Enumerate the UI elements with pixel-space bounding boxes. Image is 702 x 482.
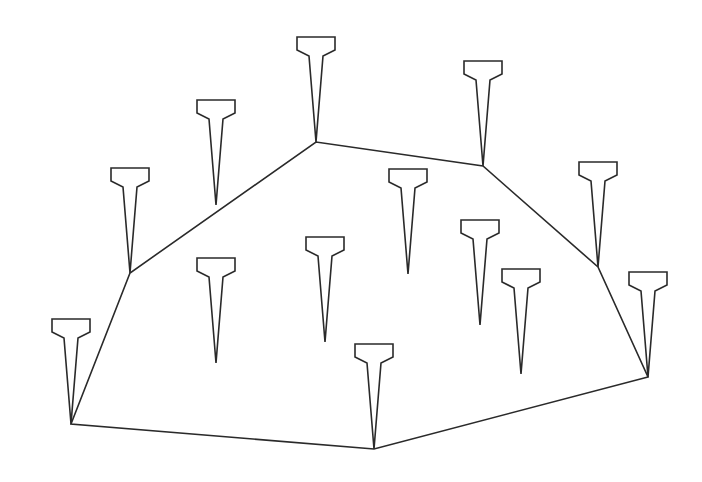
pin-marker-icon: [197, 100, 235, 205]
pin-marker-icon: [306, 237, 344, 342]
pin-marker-icon: [355, 344, 393, 449]
pin-marker-icon: [52, 319, 90, 424]
pin-marker-icon: [197, 258, 235, 363]
pin-marker-icon: [502, 269, 540, 374]
pin-marker-icon: [461, 220, 499, 325]
convex-hull-diagram: [0, 0, 702, 482]
pin-group: [52, 37, 667, 449]
convex-hull-polygon: [71, 142, 648, 449]
pin-marker-icon: [464, 61, 502, 166]
diagram-svg: [0, 0, 702, 482]
pin-marker-icon: [297, 37, 335, 142]
pin-marker-icon: [629, 272, 667, 377]
pin-marker-icon: [579, 162, 617, 267]
pin-marker-icon: [389, 169, 427, 274]
pin-marker-icon: [111, 168, 149, 273]
